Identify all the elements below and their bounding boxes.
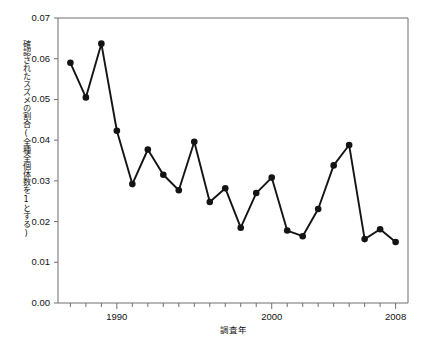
y-axis-tick-label: 0.05 (32, 93, 51, 104)
y-axis-ticks: 0.000.010.020.030.040.050.060.07 (32, 12, 59, 308)
data-point (176, 187, 183, 194)
data-point (145, 146, 152, 153)
data-point (330, 162, 337, 169)
y-axis-tick-label: 0.01 (32, 256, 51, 267)
data-point (129, 181, 136, 188)
data-point (191, 138, 198, 145)
x-axis-tick-label: 2000 (261, 311, 282, 322)
x-axis-ticks: 199020002008 (70, 303, 406, 322)
data-point (346, 142, 353, 149)
data-point-markers (67, 40, 399, 245)
data-point (222, 185, 229, 192)
y-axis-tick-label: 0.00 (32, 297, 51, 308)
x-axis-tick-label: 2008 (385, 311, 406, 322)
x-axis-tick-label: 1990 (106, 311, 127, 322)
y-axis-tick-label: 0.03 (32, 175, 51, 186)
y-axis-tick-label: 0.02 (32, 216, 51, 227)
y-axis-tick-label: 0.04 (32, 134, 51, 145)
chart-container: 確認されたスズメの割合(全種全個体数を1とする) 0.000.010.020.0… (0, 0, 422, 346)
line-chart: 0.000.010.020.030.040.050.060.07 1990200… (0, 0, 422, 346)
data-point (361, 236, 368, 243)
data-point (67, 59, 74, 66)
data-point (253, 190, 260, 197)
data-point (114, 127, 121, 134)
data-point (315, 206, 322, 213)
x-axis-title: 調査年 (220, 325, 247, 335)
y-axis-tick-label: 0.07 (32, 12, 51, 23)
data-point (392, 239, 399, 246)
data-point (377, 226, 384, 233)
y-axis-tick-label: 0.06 (32, 53, 51, 64)
data-point (98, 40, 105, 47)
y-axis-title: 確認されたスズメの割合(全種全個体数を1とする) (14, 40, 30, 290)
data-point (160, 171, 167, 178)
data-point (268, 174, 275, 181)
data-point (284, 227, 291, 234)
data-point (206, 199, 213, 206)
data-point (237, 224, 244, 231)
plot-frame (58, 18, 408, 303)
data-point (299, 233, 306, 240)
data-point (83, 94, 90, 101)
